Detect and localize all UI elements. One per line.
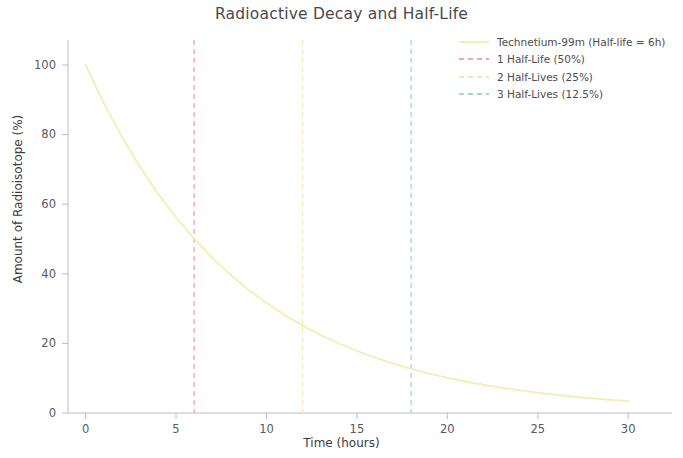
decay-curve (86, 65, 629, 401)
legend-item-3-half-lives: 3 Half-Lives (12.5%) (459, 86, 681, 104)
legend-swatch-dashed-icon (459, 88, 489, 100)
x-tick-label: 0 (66, 422, 106, 436)
x-tick-label: 20 (427, 422, 467, 436)
y-axis-ticks (62, 65, 68, 413)
legend-swatch-dashed-icon (459, 71, 489, 83)
chart-legend: Technetium-99m (Half-life = 6h) 1 Half-L… (459, 33, 681, 103)
x-tick-label: 15 (337, 422, 377, 436)
y-tick-label: 0 (16, 406, 56, 420)
legend-item-1-half-life: 1 Half-Life (50%) (459, 51, 681, 69)
chart-figure: Radioactive Decay and Half-Life (0, 0, 683, 458)
x-tick-label: 10 (247, 422, 287, 436)
legend-item-2-half-lives: 2 Half-Lives (25%) (459, 68, 681, 86)
legend-label: 2 Half-Lives (25%) (497, 71, 593, 83)
legend-label: 3 Half-Lives (12.5%) (497, 88, 603, 100)
x-axis-ticks (86, 413, 629, 419)
legend-label: Technetium-99m (Half-life = 6h) (497, 36, 665, 48)
y-tick-label: 20 (16, 336, 56, 350)
legend-item-technetium: Technetium-99m (Half-life = 6h) (459, 33, 681, 51)
legend-swatch-dashed-icon (459, 53, 489, 65)
legend-label: 1 Half-Life (50%) (497, 53, 585, 65)
x-axis-label: Time (hours) (0, 436, 683, 450)
legend-swatch-solid-icon (459, 36, 489, 48)
x-tick-label: 5 (156, 422, 196, 436)
x-tick-label: 30 (608, 422, 648, 436)
y-axis-label: Amount of Radioisotope (%) (11, 69, 25, 329)
x-tick-label: 25 (518, 422, 558, 436)
